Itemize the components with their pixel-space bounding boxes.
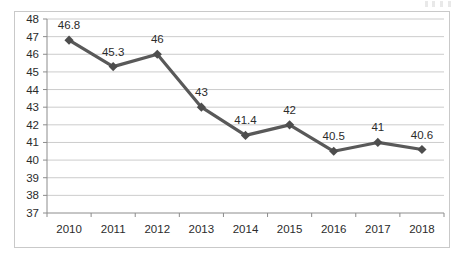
y-axis-label: 46 xyxy=(26,48,39,60)
y-axis-label: 39 xyxy=(26,172,39,184)
data-point-label: 41.4 xyxy=(234,114,257,126)
y-axis-label: 45 xyxy=(26,66,39,78)
y-axis-label: 38 xyxy=(26,189,39,201)
x-axis-label: 2013 xyxy=(189,223,215,235)
data-labels-group: 46.845.3464341.44240.54140.6 xyxy=(58,19,433,142)
x-axis-label: 2015 xyxy=(277,223,303,235)
y-axis-label: 42 xyxy=(26,119,39,131)
y-axis-label: 47 xyxy=(26,31,39,43)
x-axis-labels-group: 201020112012201320142015201620172018 xyxy=(56,223,434,235)
data-point-label: 40.6 xyxy=(411,129,433,141)
data-point-label: 42 xyxy=(283,104,296,116)
y-axis-label: 44 xyxy=(26,84,39,96)
data-point-label: 41 xyxy=(371,121,384,133)
data-point-label: 45.3 xyxy=(102,46,124,58)
y-axis-label: 43 xyxy=(26,101,39,113)
y-axis-label: 40 xyxy=(26,154,39,166)
data-point-label: 46.8 xyxy=(58,19,80,31)
y-axis-ticks-group xyxy=(43,19,47,213)
chart-frame: 484746454443424140393837 201020112012201… xyxy=(14,11,450,248)
data-point-label: 40.5 xyxy=(323,130,345,142)
data-point-label: 43 xyxy=(195,86,208,98)
x-axis-label: 2016 xyxy=(321,223,347,235)
y-axis-label: 48 xyxy=(26,13,39,25)
x-axis-label: 2011 xyxy=(101,223,126,235)
x-axis-label: 2017 xyxy=(365,223,391,235)
y-axis-label: 41 xyxy=(26,136,39,148)
data-point-marker xyxy=(417,145,426,154)
x-axis-label: 2012 xyxy=(144,223,170,235)
y-axis-labels-group: 484746454443424140393837 xyxy=(26,13,39,219)
x-axis-ticks-group xyxy=(47,213,444,217)
data-point-label: 46 xyxy=(151,33,164,45)
scan-artifact xyxy=(425,1,455,7)
x-axis-label: 2018 xyxy=(409,223,435,235)
x-axis-label: 2014 xyxy=(233,223,259,235)
line-chart: 484746454443424140393837 201020112012201… xyxy=(15,12,449,247)
y-axis-label: 37 xyxy=(26,207,39,219)
x-axis-label: 2010 xyxy=(56,223,82,235)
data-point-marker xyxy=(373,138,382,147)
